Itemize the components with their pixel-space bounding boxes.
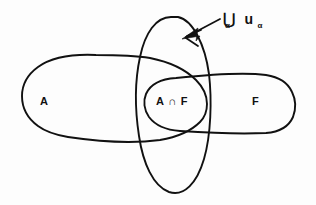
union-operand-subscript: α: [257, 21, 262, 30]
union-annotation-label: ⋃ α u α: [223, 11, 262, 30]
union-operand: u α: [244, 12, 262, 30]
intersection-label: A ∩ F: [156, 96, 188, 107]
set-f-label: F: [252, 96, 259, 107]
figure-root: A A ∩ F F ⋃ α u α: [0, 0, 316, 205]
set-a-label: A: [40, 96, 48, 107]
union-operand-glyph: u: [244, 11, 253, 27]
union-operator-subscript: α: [225, 22, 230, 30]
union-operator: ⋃ α: [223, 11, 235, 26]
